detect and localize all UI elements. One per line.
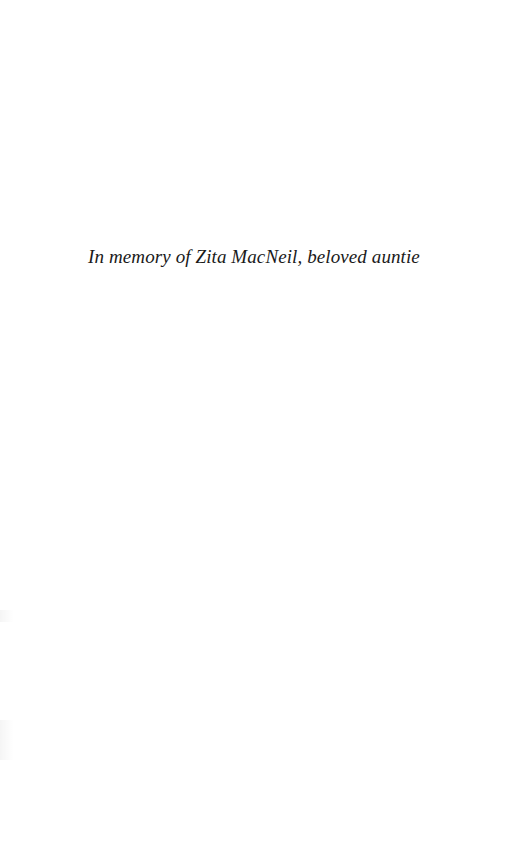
scan-artifact — [0, 720, 14, 760]
scan-artifact — [0, 610, 14, 622]
book-page: In memory of Zita MacNeil, beloved aunti… — [0, 0, 532, 856]
dedication-text: In memory of Zita MacNeil, beloved aunti… — [0, 244, 520, 270]
